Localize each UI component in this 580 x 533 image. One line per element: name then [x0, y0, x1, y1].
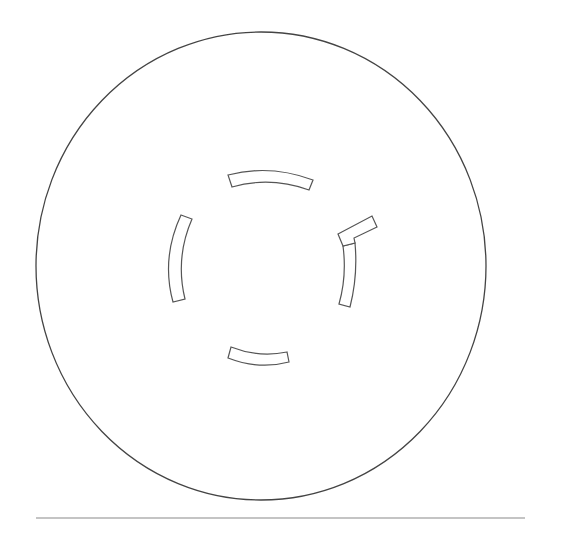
diagram-canvas [0, 0, 580, 533]
bottom-arc-segment [228, 347, 289, 365]
right-tab-segment [338, 216, 377, 246]
left-arc-segment [169, 215, 193, 302]
outer-circle-boundary [36, 32, 486, 500]
inner-segments-group [169, 171, 378, 366]
right-arc-segment [339, 243, 356, 307]
top-arc-segment [228, 171, 313, 190]
